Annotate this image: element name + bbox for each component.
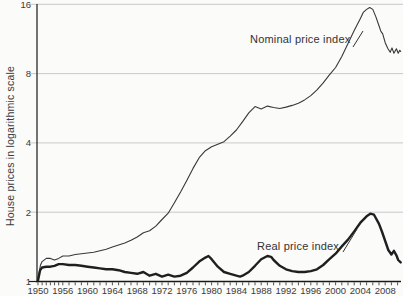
house-price-chart: 1248161950195619601964196819721976198019…	[0, 0, 403, 296]
y-tick-label: 2	[26, 207, 31, 218]
annotation-leader-nominal	[353, 31, 363, 47]
y-axis-title: House prices in logarithmic scale	[4, 66, 16, 226]
x-tick-label: 2008	[375, 285, 396, 296]
x-tick-label: 1964	[102, 285, 123, 296]
x-tick-label: 1950	[27, 285, 48, 296]
y-tick-label: 8	[26, 68, 31, 79]
x-tick-label: 1996	[300, 285, 321, 296]
annotation-nominal-price-index: Nominal price index	[250, 33, 350, 45]
annotation-leader-real	[343, 229, 357, 252]
x-tick-label: 2000	[325, 285, 346, 296]
x-tick-label: 1968	[127, 285, 148, 296]
y-tick-label: 4	[26, 137, 31, 148]
x-tick-label: 1956	[52, 285, 73, 296]
x-tick-label: 1984	[226, 285, 247, 296]
x-tick-label: 1992	[275, 285, 296, 296]
x-tick-label: 1972	[151, 285, 172, 296]
annotation-real-price-index: Real price index	[257, 240, 339, 252]
x-tick-label: 1980	[201, 285, 222, 296]
x-tick-label: 1988	[251, 285, 272, 296]
x-tick-label: 1960	[77, 285, 98, 296]
x-tick-label: 1976	[176, 285, 197, 296]
x-tick-label: 2004	[350, 285, 371, 296]
y-tick-label: 16	[20, 0, 31, 10]
